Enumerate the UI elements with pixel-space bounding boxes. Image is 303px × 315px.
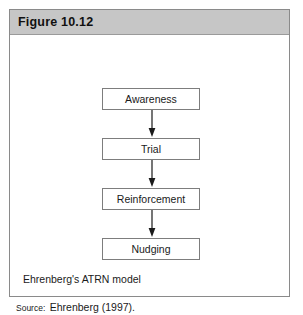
- flow-node-nudging: Nudging: [102, 238, 200, 260]
- figure-source: Source: Ehrenberg (1997).: [16, 297, 135, 315]
- figure-header-band: Figure 10.12: [10, 10, 289, 35]
- flow-node-awareness: Awareness: [102, 88, 200, 110]
- figure-caption: Ehrenberg's ATRN model: [23, 273, 141, 285]
- flow-node-reinforcement: Reinforcement: [102, 188, 200, 210]
- flow-arrow-awareness-to-trial: [148, 110, 156, 138]
- figure-title: Figure 10.12: [10, 15, 93, 29]
- source-label: Source:: [16, 303, 45, 313]
- figure-body: Awareness Trial Reinforcement Nu: [10, 35, 289, 296]
- flow-node-label: Trial: [141, 143, 161, 155]
- flow-node-label: Awareness: [125, 93, 177, 105]
- source-citation: Ehrenberg (1997).: [50, 301, 135, 313]
- flow-node-trial: Trial: [102, 138, 200, 160]
- flow-arrow-trial-to-reinforcement: [148, 160, 156, 188]
- flow-node-label: Reinforcement: [117, 193, 185, 205]
- flowchart-diagram: Awareness Trial Reinforcement Nu: [10, 35, 289, 220]
- figure-frame: Figure 10.12 Awareness Trial Reinforceme…: [9, 9, 290, 297]
- flow-arrow-reinforcement-to-nudging: [148, 210, 156, 238]
- flow-node-label: Nudging: [131, 243, 170, 255]
